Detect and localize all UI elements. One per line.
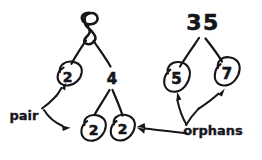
node-2b-label: 2 (89, 122, 99, 138)
edge-4-to-2c (113, 90, 123, 116)
node-2a-label: 2 (63, 69, 73, 85)
node-7-label: 7 (222, 65, 232, 83)
pair-arrowhead-lower (62, 125, 71, 131)
orphans-arrowhead-2c (137, 123, 146, 128)
orphans-arrow-branch-to-7 (199, 94, 219, 109)
diagram-sketch: 2 4 2 2 35 (0, 0, 262, 160)
node-2c-label: 2 (118, 121, 128, 137)
left-tree: 2 4 2 2 (58, 13, 135, 141)
right-tree: 35 5 7 (164, 10, 239, 92)
node-2a: 2 (58, 62, 82, 86)
orphans-annotation: orphans (137, 88, 243, 137)
pair-arrow-branch-lower (44, 110, 63, 126)
node-4: 4 (107, 70, 117, 88)
edge-4-to-2b (94, 90, 109, 115)
sketch-canvas: 2 4 2 2 35 (0, 0, 262, 160)
pair-annotation: pair (10, 82, 71, 131)
edge-35-to-7 (206, 39, 223, 62)
orphans-arrow-branch-to-5 (177, 100, 186, 124)
orphans-arrow-to-2c (145, 129, 187, 134)
node-5-label: 5 (171, 70, 181, 88)
edge-8-to-4 (94, 41, 111, 67)
node-2b: 2 (81, 115, 105, 141)
node-35-label: 35 (186, 10, 220, 35)
pair-arrow-branch-upper (56, 88, 61, 96)
node-8 (82, 13, 98, 44)
node-4-label: 4 (107, 70, 117, 88)
orphans-label: orphans (183, 123, 243, 138)
node-35: 35 (186, 10, 220, 35)
node-5: 5 (164, 62, 190, 92)
node-2c: 2 (111, 115, 135, 141)
node-7: 7 (215, 57, 240, 85)
pair-label: pair (10, 108, 40, 123)
edge-8-to-2a (72, 41, 87, 64)
pair-arrow-stem (42, 96, 56, 109)
orphans-arrowhead-5 (176, 92, 181, 101)
orphans-arrowhead-7 (218, 88, 225, 96)
